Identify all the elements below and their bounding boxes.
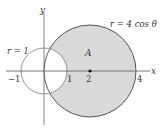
diagram-canvas: y x r = 4 cos θ r = 1 A −1 1 2 4 xyxy=(0,0,162,132)
y-axis-label: y xyxy=(39,5,46,15)
region-label: A xyxy=(84,48,92,58)
small-curve-label: r = 1 xyxy=(7,46,29,56)
x-axis-label: x xyxy=(151,66,156,76)
tick-label-2: 2 xyxy=(86,74,91,84)
polar-diagram: y x r = 4 cos θ r = 1 A −1 1 2 4 xyxy=(0,0,162,132)
tick-label-1: 1 xyxy=(67,74,72,84)
center-point xyxy=(88,69,91,72)
tick-label-neg1: −1 xyxy=(8,74,21,84)
large-curve-label: r = 4 cos θ xyxy=(110,19,157,29)
tick-label-4: 4 xyxy=(137,74,142,84)
